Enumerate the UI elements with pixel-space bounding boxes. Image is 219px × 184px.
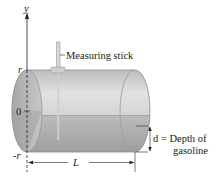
depth-label-line1: d = Depth of xyxy=(153,133,207,144)
arrow-right-icon xyxy=(130,161,135,164)
tick-label-neg-r: -r xyxy=(13,150,21,161)
tank-diagram: Measuring stick y r 0 -r L d = Depth of … xyxy=(0,0,219,184)
depth-label-line2: gasoline xyxy=(173,145,208,156)
measuring-stick-label: Measuring stick xyxy=(66,50,134,61)
length-label: L xyxy=(72,157,79,168)
tick-label-0: 0 xyxy=(16,106,21,117)
y-axis-label: y xyxy=(23,3,29,14)
arrow-left-icon xyxy=(28,161,33,164)
length-dimension xyxy=(28,152,135,172)
